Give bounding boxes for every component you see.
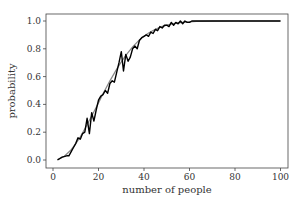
- series-theoretical: [58, 21, 281, 160]
- y-tick-label: 0.2: [27, 127, 41, 137]
- y-axis-label: probability: [6, 63, 17, 119]
- x-tick-label: 60: [184, 172, 196, 182]
- x-tick-label: 100: [272, 172, 289, 182]
- y-axis-ticks: 0.00.20.40.60.81.0: [27, 16, 46, 165]
- chart: 020406080100 0.00.20.40.60.81.0 number o…: [0, 0, 301, 207]
- series-layer: [58, 21, 281, 160]
- x-tick-label: 80: [229, 172, 241, 182]
- y-tick-label: 0.6: [27, 72, 42, 82]
- y-tick-label: 1.0: [27, 16, 42, 26]
- chart-canvas: 020406080100 0.00.20.40.60.81.0 number o…: [0, 0, 301, 207]
- y-tick-label: 0.8: [27, 44, 42, 54]
- x-axis-label: number of people: [122, 184, 211, 195]
- y-tick-label: 0.0: [27, 155, 42, 165]
- series-simulated: [58, 21, 281, 160]
- x-axis-ticks: 020406080100: [50, 168, 289, 182]
- y-tick-label: 0.4: [27, 99, 42, 109]
- x-tick-label: 20: [93, 172, 105, 182]
- x-tick-label: 40: [138, 172, 150, 182]
- x-tick-label: 0: [50, 172, 56, 182]
- plot-frame: [46, 14, 288, 168]
